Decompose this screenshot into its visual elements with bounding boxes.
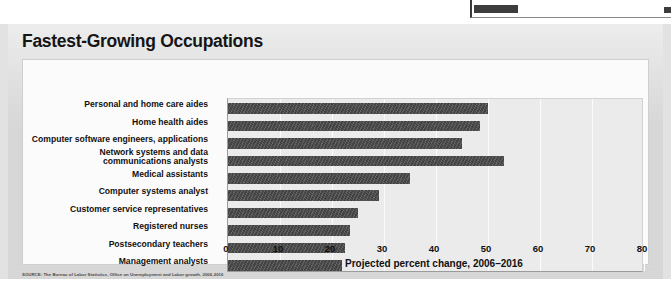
right-gutter — [663, 24, 671, 279]
bar-row — [228, 138, 462, 149]
bar-row — [228, 156, 504, 167]
x-tick-label-70: 70 — [585, 243, 596, 254]
x-tick-label-80: 80 — [637, 243, 648, 254]
category-label: Management analysts — [22, 257, 208, 267]
x-tick-label-10: 10 — [273, 243, 284, 254]
category-axis-labels: Personal and home care aidesHome health … — [22, 24, 208, 230]
bar — [228, 173, 410, 184]
category-label: Computer software engineers, application… — [22, 135, 208, 145]
x-tick-label-20: 20 — [325, 243, 336, 254]
bar-row — [228, 121, 480, 132]
bar — [228, 121, 480, 132]
category-label: Personal and home care aides — [22, 100, 208, 110]
bar-row — [228, 190, 379, 201]
chart-screenshot: Fastest-Growing Occupations Personal and… — [0, 0, 671, 284]
previous-figure-bar — [474, 5, 518, 13]
bar — [228, 208, 358, 219]
previous-figure-fragment — [470, 0, 671, 18]
x-tick-label-0: 0 — [223, 243, 228, 254]
figure-panel: Fastest-Growing Occupations Personal and… — [8, 24, 663, 279]
bar — [228, 138, 462, 149]
bar — [228, 156, 504, 167]
bar — [228, 225, 350, 236]
bar-row — [228, 225, 350, 236]
bar — [228, 103, 488, 114]
x-axis-title: Projected percent change, 2006–2016 — [226, 258, 642, 269]
x-tick-label-30: 30 — [377, 243, 388, 254]
x-tick-label-60: 60 — [533, 243, 544, 254]
bar — [228, 190, 379, 201]
category-label: Medical assistants — [22, 170, 208, 180]
bar-row — [228, 103, 488, 114]
bar-row — [228, 173, 410, 184]
left-gutter — [0, 24, 8, 279]
bar-row — [228, 208, 358, 219]
category-label: Customer service representatives — [22, 205, 208, 215]
category-label: Postsecondary teachers — [22, 240, 208, 250]
x-tick-label-50: 50 — [481, 243, 492, 254]
category-label: Home health aides — [22, 118, 208, 128]
category-label: Computer systems analyst — [22, 187, 208, 197]
category-label: Network systems and data communications … — [22, 148, 208, 167]
x-tick-label-40: 40 — [429, 243, 440, 254]
previous-figure-tick — [664, 7, 671, 13]
category-label: Registered nurses — [22, 222, 208, 232]
source-note: SOURCE: The Bureau of Labor Statistics, … — [22, 272, 223, 277]
